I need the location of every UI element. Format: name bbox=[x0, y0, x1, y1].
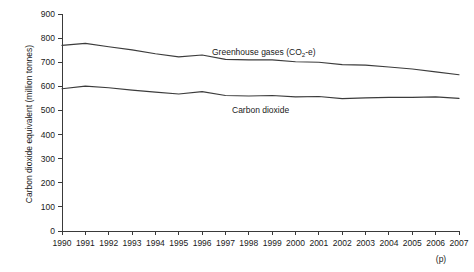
y-tick-label: 600 bbox=[41, 81, 55, 91]
x-tick-label: 2004 bbox=[379, 238, 398, 248]
x-tick-label: 1990 bbox=[53, 238, 72, 248]
provisional-marker: (p) bbox=[436, 254, 447, 264]
x-tick-label: 1991 bbox=[76, 238, 95, 248]
y-tick-label: 0 bbox=[50, 226, 55, 236]
y-tick-label: 500 bbox=[41, 105, 55, 115]
y-tick-label: 400 bbox=[41, 130, 55, 140]
x-tick-label: 2002 bbox=[333, 238, 352, 248]
y-tick-label: 300 bbox=[41, 154, 55, 164]
x-tick-label: 1999 bbox=[263, 238, 282, 248]
x-tick-label: 2001 bbox=[309, 238, 328, 248]
chart-container: Carbon dioxide equivalent (million tonne… bbox=[0, 0, 474, 272]
x-tick-label: 1997 bbox=[216, 238, 235, 248]
y-tick-label: 900 bbox=[41, 9, 55, 19]
x-tick-label: 2005 bbox=[403, 238, 422, 248]
x-tick-label: 2006 bbox=[426, 238, 445, 248]
series-label-carbon-dioxide: Carbon dioxide bbox=[232, 105, 289, 115]
y-tick-label: 200 bbox=[41, 178, 55, 188]
x-tick-label: 1994 bbox=[146, 238, 165, 248]
series-label-greenhouse-gases: Greenhouse gases (CO2-e) bbox=[212, 47, 316, 58]
x-tick-label: 1992 bbox=[99, 238, 118, 248]
x-tick-label: 1995 bbox=[169, 238, 188, 248]
x-tick-label: 2003 bbox=[356, 238, 375, 248]
y-tick-label: 100 bbox=[41, 202, 55, 212]
y-tick-label: 700 bbox=[41, 57, 55, 67]
line-chart: Carbon dioxide equivalent (million tonne… bbox=[0, 0, 474, 272]
x-tick-label: 1998 bbox=[239, 238, 258, 248]
x-tick-label: 1993 bbox=[123, 238, 142, 248]
y-tick-label: 800 bbox=[41, 33, 55, 43]
x-tick-label: 1996 bbox=[193, 238, 212, 248]
y-axis-title: Carbon dioxide equivalent (million tonne… bbox=[24, 45, 34, 203]
x-tick-label: 2007 bbox=[450, 238, 469, 248]
x-tick-label: 2000 bbox=[286, 238, 305, 248]
